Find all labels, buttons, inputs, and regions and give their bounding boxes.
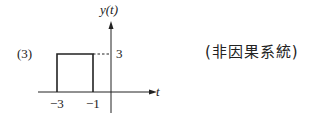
y-tick-3: 3 [116, 47, 123, 60]
x-tick-minus-3: −3 [50, 97, 64, 110]
t-axis-label: t [156, 85, 160, 98]
pulse-signal [57, 54, 93, 92]
item-label: (3) [17, 47, 32, 60]
y-axis-label: y(t) [100, 3, 118, 16]
y-axis-arrow-icon [109, 21, 114, 29]
noncausal-annotation: (非因果系統) [205, 46, 299, 59]
x-tick-minus-1: −1 [86, 97, 100, 110]
